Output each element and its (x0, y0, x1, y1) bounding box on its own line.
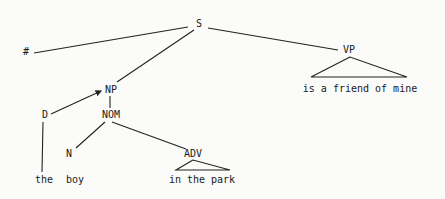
leaf-adv-phrase: in the park (169, 174, 235, 186)
edge-s-vp (208, 28, 338, 50)
node-boundary-hash: # (23, 46, 29, 58)
node-s: S (196, 18, 202, 30)
node-np: NP (105, 84, 117, 96)
node-vp: VP (343, 44, 355, 56)
vp-triangle (311, 57, 407, 77)
edge-nom-n (76, 122, 105, 148)
edge-nom-adv (112, 122, 186, 149)
leaf-the: the (35, 174, 53, 186)
node-adv: ADV (184, 148, 202, 160)
node-n: N (66, 148, 72, 160)
node-d: D (42, 109, 48, 121)
edge-d-np-arrow (51, 91, 101, 114)
edge-d-the (42, 122, 43, 172)
leaf-boy: boy (66, 174, 84, 186)
adv-triangle (176, 160, 230, 170)
edge-s-np (117, 30, 194, 82)
leaf-vp-phrase: is a friend of mine (303, 83, 417, 95)
node-nom: NOM (102, 109, 120, 121)
tree-edges (0, 0, 445, 199)
